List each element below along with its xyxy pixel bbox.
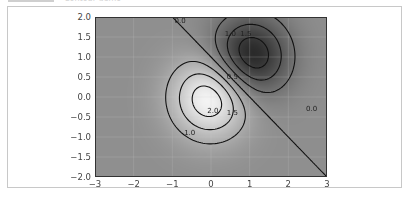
y-tick-label: −0.5 xyxy=(70,112,91,122)
x-tick-label: 0 xyxy=(201,179,221,189)
x-tick-label: 1 xyxy=(240,179,260,189)
x-tick-label: 3 xyxy=(317,179,337,189)
y-tick-label: 0.0 xyxy=(77,92,91,102)
window-header: Contour demo xyxy=(0,0,406,5)
y-tick-label: 0.5 xyxy=(77,72,91,82)
y-tick-label: 1.0 xyxy=(77,52,91,62)
x-tick-label: 2 xyxy=(278,179,298,189)
y-tick-label: 1.5 xyxy=(77,32,91,42)
header-text: Contour demo xyxy=(64,0,121,3)
y-tick-label: 2.0 xyxy=(77,12,91,22)
x-tick-label: −3 xyxy=(85,179,105,189)
x-tick-label: −2 xyxy=(124,179,144,189)
y-tick-label: −1.0 xyxy=(70,132,91,142)
y-tick-label: −1.5 xyxy=(70,152,91,162)
contour-canvas xyxy=(95,17,327,177)
contour-plot-area xyxy=(95,17,327,177)
tab-indicator[interactable] xyxy=(8,0,54,2)
x-tick-label: −1 xyxy=(162,179,182,189)
